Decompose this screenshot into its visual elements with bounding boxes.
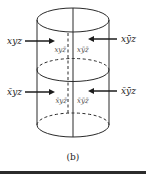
arrow-xyz bbox=[25, 38, 55, 44]
arrow-xbar-ybar-z bbox=[88, 88, 117, 94]
label-xyz: xyz bbox=[7, 36, 22, 46]
label-x-ybar-z: xȳz bbox=[121, 34, 136, 44]
label-xbar-ybar-z: x̄ȳz bbox=[121, 86, 136, 96]
arrow-x-ybar-z bbox=[88, 36, 117, 42]
label-xbar-y-zbar: x̄yz̄ bbox=[55, 97, 67, 105]
label-x-y-zbar: xyz̄ bbox=[54, 46, 66, 54]
minterm-cylinder-figure: xyz xȳz x̄yz x̄ȳz xyz̄ xȳz̄ x̄yz̄ x̄y… bbox=[0, 0, 146, 181]
page-rule-divider bbox=[0, 171, 146, 174]
figure-caption: (b) bbox=[0, 152, 146, 162]
label-xbar-y-z: x̄yz bbox=[7, 87, 22, 97]
label-xbar-ybar-zbar: x̄ȳz̄ bbox=[77, 97, 89, 105]
arrow-xbar-y-z bbox=[25, 89, 55, 95]
label-x-ybar-zbar: xȳz̄ bbox=[77, 46, 89, 54]
